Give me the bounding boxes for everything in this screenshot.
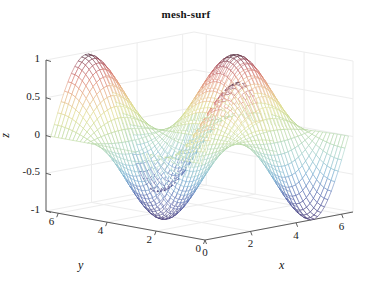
x-tick-label-3: 6 xyxy=(330,220,354,232)
x-tick-label-1: 2 xyxy=(239,237,263,249)
y-axis-label: y xyxy=(78,258,83,273)
z-axis-label: z xyxy=(0,133,13,138)
y-tick-label-3: 6 xyxy=(28,215,54,227)
z-tick-label-0: -1 xyxy=(4,203,40,215)
z-tick-label-1: -0.5 xyxy=(4,165,40,177)
y-tick-label-1: 2 xyxy=(126,233,152,245)
z-tick-label-4: 1 xyxy=(4,52,40,64)
x-tick-label-2: 4 xyxy=(284,229,308,241)
x-tick-label-0: 0 xyxy=(193,246,217,258)
matlab-figure-window: mesh-surf -1-0.500.5102460246yxz xyxy=(0,0,372,295)
y-tick-label-2: 4 xyxy=(77,224,103,236)
x-axis-label: x xyxy=(279,258,284,273)
z-tick-label-3: 0.5 xyxy=(4,90,40,102)
